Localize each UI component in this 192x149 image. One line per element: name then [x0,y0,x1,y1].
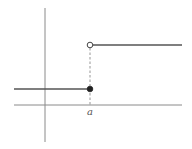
closed-endpoint-dot [87,86,93,92]
x-tick-label-a: a [87,106,93,117]
step-function-diagram: a [0,0,192,149]
open-endpoint-dot [87,42,93,48]
